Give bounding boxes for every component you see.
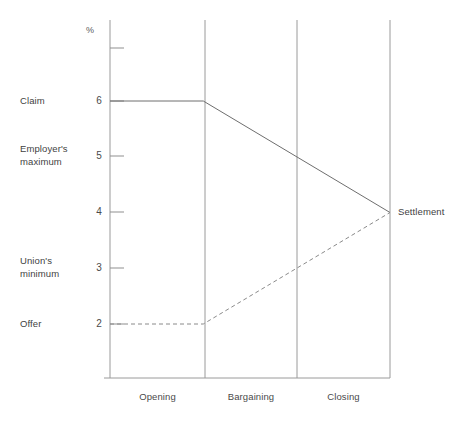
phase-label-opening: Opening [110, 391, 205, 404]
phase-label-bargaining: Bargaining [205, 391, 297, 404]
y-tick-label-5: 5 [80, 150, 102, 163]
y-tick-label-4: 4 [80, 206, 102, 219]
series-offer-line [110, 213, 390, 325]
annotation-offer: Offer [20, 318, 41, 331]
negotiation-chart: % 6 5 4 3 2 Claim Employer's maximum Uni… [0, 0, 472, 423]
y-tick-label-2: 2 [80, 318, 102, 331]
y-axis-unit-label: % [86, 24, 94, 37]
annotation-claim: Claim [20, 95, 45, 108]
phase-label-closing: Closing [297, 391, 390, 404]
annotation-unions-minimum: Union's minimum [20, 255, 59, 280]
annotation-settlement: Settlement [398, 206, 444, 219]
series-claim-line [110, 101, 390, 213]
y-tick-label-3: 3 [80, 262, 102, 275]
annotation-employers-maximum: Employer's maximum [20, 143, 68, 168]
y-tick-label-6: 6 [80, 95, 102, 108]
